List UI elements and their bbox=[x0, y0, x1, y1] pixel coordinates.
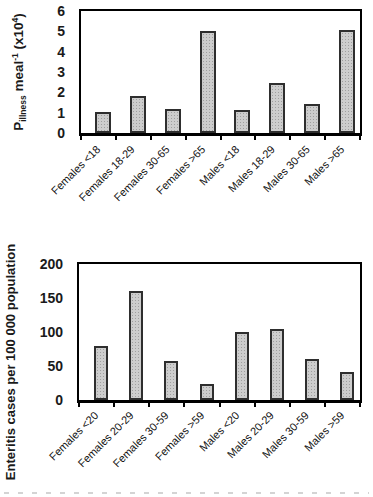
x-tick-illness bbox=[359, 136, 361, 140]
bar-males-30-65 bbox=[304, 104, 320, 133]
bar-males-65 bbox=[339, 30, 355, 133]
x-tick-enteritis bbox=[254, 403, 256, 407]
y-tick-label-enteritis: 0 bbox=[23, 392, 63, 408]
y-tick-label-illness: 2 bbox=[25, 84, 65, 100]
x-tick-illness bbox=[115, 136, 117, 140]
bar-females-20-29 bbox=[129, 291, 143, 400]
y-tick-label-enteritis: 100 bbox=[23, 324, 63, 340]
bar-females-30-59 bbox=[164, 361, 178, 400]
x-tick-enteritis bbox=[289, 403, 291, 407]
x-tick-illness bbox=[150, 136, 152, 140]
x-tick-enteritis bbox=[324, 403, 326, 407]
x-tick-illness bbox=[289, 136, 291, 140]
bar-females-18-29 bbox=[130, 96, 146, 133]
bar-males-20-29 bbox=[270, 329, 284, 400]
x-tick-enteritis bbox=[78, 403, 80, 407]
y-tick-label-illness: 5 bbox=[25, 23, 65, 39]
x-tick-illness bbox=[185, 136, 187, 140]
bar-females-30-65 bbox=[165, 109, 181, 133]
bar-females-59 bbox=[200, 384, 214, 400]
y-tick-label-illness: 4 bbox=[25, 44, 65, 60]
x-tick-illness bbox=[220, 136, 222, 140]
plot-frame-enteritis bbox=[77, 262, 362, 403]
two-panel-bar-figure: Pillness meal-1 (x104) Enteritis cases p… bbox=[0, 0, 373, 497]
y-tick-label-enteritis: 50 bbox=[23, 358, 63, 374]
x-tick-enteritis bbox=[148, 403, 150, 407]
y-tick-label-illness: 0 bbox=[25, 125, 65, 141]
cropped-caption-remnant bbox=[4, 492, 369, 494]
y-axis-title-enteritis: Enteritis cases per 100 000 population bbox=[3, 244, 18, 480]
bar-males-18 bbox=[234, 110, 250, 133]
x-tick-enteritis bbox=[359, 403, 361, 407]
x-tick-illness bbox=[254, 136, 256, 140]
bar-males-59 bbox=[340, 372, 354, 400]
y-tick-label-illness: 6 bbox=[25, 3, 65, 19]
x-tick-enteritis bbox=[219, 403, 221, 407]
y-tick-label-enteritis: 150 bbox=[23, 290, 63, 306]
bar-males-18-29 bbox=[269, 83, 285, 133]
x-tick-enteritis bbox=[113, 403, 115, 407]
x-tick-enteritis bbox=[183, 403, 185, 407]
bar-females-65 bbox=[200, 31, 216, 133]
bar-males-20 bbox=[235, 332, 249, 400]
y-tick-label-enteritis: 200 bbox=[23, 256, 63, 272]
y-tick-label-illness: 1 bbox=[25, 105, 65, 121]
bar-females-20 bbox=[94, 346, 108, 400]
x-tick-illness bbox=[324, 136, 326, 140]
bar-males-30-59 bbox=[305, 359, 319, 400]
x-tick-illness bbox=[80, 136, 82, 140]
bar-females-18 bbox=[95, 112, 111, 133]
y-tick-label-illness: 3 bbox=[25, 64, 65, 80]
